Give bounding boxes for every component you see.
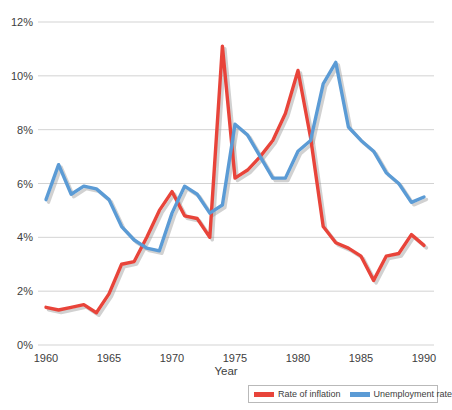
series-lines: [46, 46, 427, 315]
chart-legend: Rate of inflation Unemployment rate: [248, 385, 438, 403]
y-tick-label: 4%: [17, 231, 33, 243]
legend-swatch-unemployment: [350, 392, 370, 397]
y-tick-label: 10%: [11, 70, 33, 82]
x-tick-label: 1960: [34, 352, 58, 364]
legend-label-unemployment: Unemployment rate: [374, 390, 452, 399]
x-tick-label: 1975: [223, 352, 247, 364]
legend-label-inflation: Rate of inflation: [278, 390, 341, 399]
legend-item-inflation: Rate of inflation: [254, 390, 341, 399]
gridlines: [38, 22, 434, 345]
y-tick-label: 6%: [17, 178, 33, 190]
y-tick-label: 0%: [17, 339, 33, 351]
x-tick-label: 1980: [286, 352, 310, 364]
series-line-shadow: [49, 65, 427, 253]
x-tick-label: 1965: [97, 352, 121, 364]
series-line-rate-of-inflation: [46, 46, 424, 312]
y-axis-tick-labels: 0%2%4%6%8%10%12%: [11, 16, 33, 351]
legend-item-unemployment: Unemployment rate: [350, 390, 452, 399]
y-tick-label: 12%: [11, 16, 33, 28]
x-tick-label: 1970: [160, 352, 184, 364]
legend-swatch-inflation: [254, 392, 274, 397]
x-tick-label: 1990: [412, 352, 436, 364]
x-axis-title: Year: [214, 365, 237, 377]
y-tick-label: 8%: [17, 124, 33, 136]
y-tick-label: 2%: [17, 285, 33, 297]
x-tick-label: 1985: [349, 352, 373, 364]
x-axis-tick-labels: 1960196519701975198019851990: [34, 352, 436, 364]
